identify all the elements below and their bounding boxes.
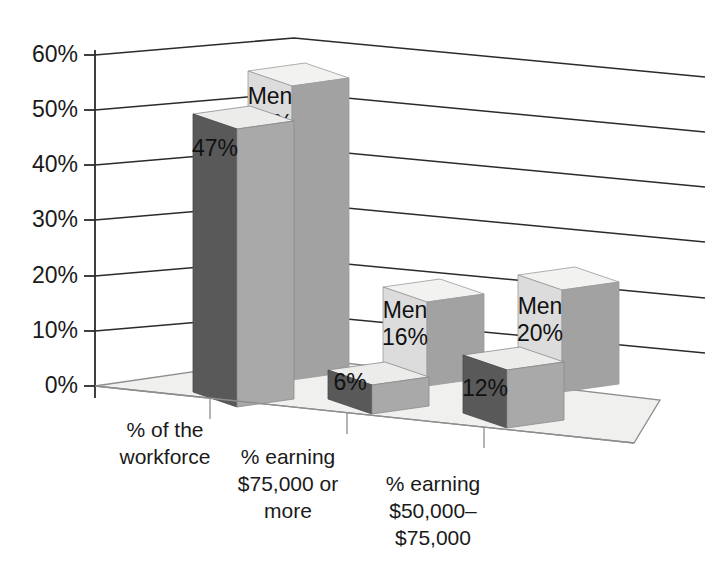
y-axis-label-40: 40% xyxy=(32,151,78,177)
gridline-60 xyxy=(95,38,705,77)
category-label-1-line-2: more xyxy=(264,499,312,522)
bar-women-group2-side xyxy=(507,362,564,428)
gridline-40 xyxy=(95,148,705,187)
bar-men-group1-series-label: Men xyxy=(383,297,428,323)
y-axis-label-0: 0% xyxy=(45,372,78,398)
bar-women-group2[interactable]: 12% xyxy=(462,347,564,428)
category-label-2-line-1: $50,000– xyxy=(389,499,477,522)
y-axis-label-10: 10% xyxy=(32,317,78,343)
bar-men-group2-side xyxy=(562,282,619,392)
gridline-30 xyxy=(95,203,705,242)
category-label-1-line-0: % earning xyxy=(241,445,336,468)
category-label-2-line-2: $75,000 xyxy=(395,526,471,549)
bar-women-group0[interactable]: 47% xyxy=(192,106,294,407)
bar-chart-3d: 60% 50% 40% 30% 20% 10% 0% Men 20% Men 1… xyxy=(0,0,712,583)
category-label-1: % earning $75,000 or more xyxy=(238,445,338,522)
bar-men-group0-series-label: Men xyxy=(248,83,293,109)
bar-men-group2-series-label: Men xyxy=(518,293,563,319)
bar-women-group1-value-label: 6% xyxy=(333,369,366,395)
category-label-0-line-1: workforce xyxy=(118,445,210,468)
y-axis-label-50: 50% xyxy=(32,96,78,122)
category-label-2-line-0: % earning xyxy=(386,472,481,495)
bar-women-group0-side xyxy=(237,121,294,407)
category-label-2: % earning $50,000– $75,000 xyxy=(386,472,481,549)
bar-women-group0-value-label: 47% xyxy=(192,135,238,161)
category-label-0-line-0: % of the xyxy=(126,418,203,441)
y-axis-label-20: 20% xyxy=(32,262,78,288)
gridline-50 xyxy=(95,93,705,132)
chart-container: 60% 50% 40% 30% 20% 10% 0% Men 20% Men 1… xyxy=(0,0,712,583)
y-axis: 60% 50% 40% 30% 20% 10% 0% xyxy=(32,41,95,398)
bar-women-group2-value-label: 12% xyxy=(462,375,508,401)
category-label-1-line-1: $75,000 or xyxy=(238,472,338,495)
category-label-0: % of the workforce xyxy=(118,418,210,468)
bar-men-group2-value-label: 20% xyxy=(517,320,563,346)
bar-men-group1-value-label: 16% xyxy=(382,324,428,350)
y-axis-label-60: 60% xyxy=(32,41,78,67)
bar-men-group0-side xyxy=(292,78,349,380)
y-axis-label-30: 30% xyxy=(32,206,78,232)
